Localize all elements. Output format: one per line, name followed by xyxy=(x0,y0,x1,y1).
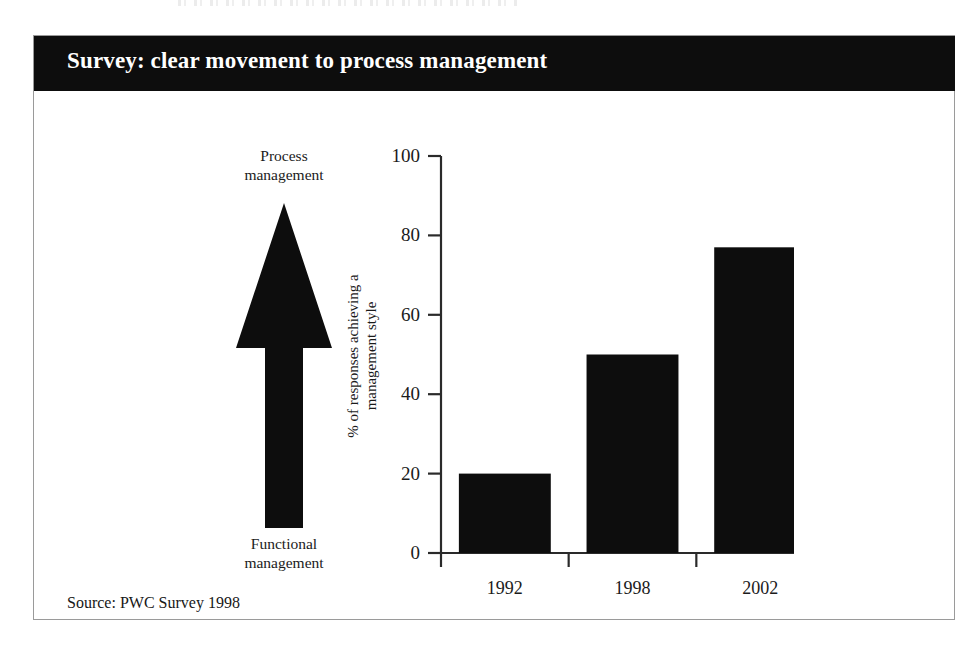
bar-series xyxy=(459,247,794,553)
y-tick-label-80: 80 xyxy=(401,224,420,245)
y-tick-label-100: 100 xyxy=(392,146,421,166)
scan-bleed-artifact xyxy=(178,0,518,6)
figure-body: Process management Functional management… xyxy=(34,91,955,620)
figure-title-bar: Survey: clear movement to process manage… xyxy=(34,36,955,91)
bar-chart: 020406080100 199219982002 % of responses… xyxy=(324,146,794,616)
y-axis-title-line1: % of responses achieving a xyxy=(345,274,361,438)
x-tick-label-2002: 2002 xyxy=(742,578,778,598)
source-note: Source: PWC Survey 1998 xyxy=(67,594,240,612)
x-axis-tick-labels: 199219982002 xyxy=(487,578,778,598)
figure-title: Survey: clear movement to process manage… xyxy=(67,48,547,74)
y-axis-title: % of responses achieving a management st… xyxy=(345,274,379,438)
y-axis-ticks xyxy=(428,156,441,553)
bar-2002 xyxy=(714,247,794,553)
y-axis-tick-labels: 020406080100 xyxy=(392,146,421,563)
bar-chart-canvas: 020406080100 199219982002 % of responses… xyxy=(324,146,794,616)
figure-frame: Survey: clear movement to process manage… xyxy=(33,35,955,620)
y-tick-label-20: 20 xyxy=(401,463,420,484)
y-tick-label-40: 40 xyxy=(401,383,420,404)
x-axis-ticks xyxy=(441,553,794,567)
bar-1998 xyxy=(587,355,679,554)
y-tick-label-0: 0 xyxy=(411,542,421,563)
y-tick-label-60: 60 xyxy=(401,304,420,325)
x-tick-label-1992: 1992 xyxy=(487,578,523,598)
bar-1992 xyxy=(459,474,551,553)
y-axis-title-line2: management style xyxy=(363,301,379,410)
x-tick-label-1998: 1998 xyxy=(615,578,651,598)
